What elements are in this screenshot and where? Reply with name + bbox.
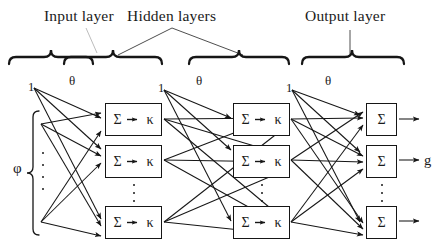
- kappa-icon: κ: [147, 113, 154, 127]
- bias-node-2: 1: [158, 82, 164, 95]
- sigma-icon: Σ: [113, 155, 121, 169]
- hidden1-neuron-2: Σ κ: [105, 145, 162, 178]
- header-leader-lines: [86, 28, 97, 53]
- sigma-icon: Σ: [113, 216, 121, 230]
- edges-bias3: [292, 90, 360, 222]
- kappa-icon: κ: [275, 113, 282, 127]
- sigma-icon: Σ: [241, 155, 249, 169]
- arrow-right-icon: [255, 218, 270, 227]
- hidden2-neuron-2: Σ κ: [233, 145, 290, 178]
- arrow-right-icon: [255, 157, 270, 166]
- arrow-right-icon: [127, 115, 142, 124]
- arrow-right-icon: [127, 218, 142, 227]
- input-vector-label-phi: φ: [13, 161, 22, 176]
- sigma-icon: Σ: [113, 113, 121, 127]
- edges-bias2: [164, 90, 231, 221]
- header-input-layer: Input layer: [44, 8, 114, 24]
- sigma-icon: Σ: [241, 216, 249, 230]
- edges-hidden2-to-output: [291, 112, 363, 235]
- sigma-icon: Σ: [241, 113, 249, 127]
- output-layer-ellipsis: [380, 184, 384, 202]
- hidden1-neuron-3: Σ κ: [105, 206, 162, 239]
- bias-node-1: 1: [28, 81, 34, 94]
- theta-label-3: θ: [325, 74, 331, 87]
- header-hidden-layers: Hidden layers: [127, 8, 216, 24]
- sigma-icon: Σ: [377, 216, 385, 230]
- hidden2-neuron-3: Σ κ: [233, 206, 290, 239]
- output-label-g: g: [424, 153, 431, 168]
- hidden2-ellipsis: [260, 184, 264, 202]
- theta-label-1: θ: [69, 74, 75, 87]
- hidden2-neuron-1: Σ κ: [233, 103, 290, 136]
- layer-braces: [9, 50, 404, 64]
- header-output-layer: Output layer: [305, 8, 385, 24]
- arrow-right-icon: [255, 115, 270, 124]
- hidden-leader-lines: [118, 28, 243, 55]
- hidden1-neuron-1: Σ κ: [105, 103, 162, 136]
- theta-label-2: θ: [196, 74, 202, 87]
- output-neuron-1: Σ: [366, 103, 397, 136]
- sigma-icon: Σ: [377, 155, 385, 169]
- kappa-icon: κ: [275, 216, 282, 230]
- sigma-icon: Σ: [377, 113, 385, 127]
- output-neuron-3: Σ: [366, 206, 397, 239]
- neural-network-diagram: Input layer Hidden layers Output layer 1…: [0, 0, 442, 249]
- output-neuron-2: Σ: [366, 145, 397, 178]
- kappa-icon: κ: [147, 216, 154, 230]
- output-arrows: [399, 119, 419, 221]
- kappa-icon: κ: [275, 155, 282, 169]
- bias-node-3: 1: [286, 82, 292, 95]
- arrow-right-icon: [127, 157, 142, 166]
- input-brace: [27, 111, 39, 235]
- hidden1-ellipsis: [132, 184, 136, 202]
- kappa-icon: κ: [147, 155, 154, 169]
- input-layer-ellipsis: [41, 152, 45, 190]
